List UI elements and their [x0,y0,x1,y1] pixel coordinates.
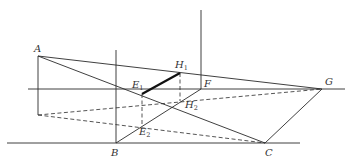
line-b-f [116,89,201,143]
segment-e1-h1 [142,73,180,94]
label-e2: E2 [138,126,150,139]
label-f: F [203,78,212,89]
label-b: B [110,147,118,158]
dashed-afoot-c [38,115,265,143]
perspective-diagram: A B C F G H1 H2 E1 E2 [0,0,355,162]
label-a: A [33,43,41,54]
label-e1: E1 [131,79,143,92]
line-c-g [265,89,322,143]
label-g: G [325,76,333,87]
label-c: C [265,147,273,158]
label-h1: H1 [174,59,188,72]
